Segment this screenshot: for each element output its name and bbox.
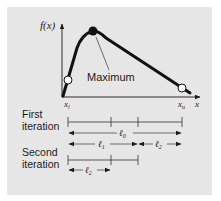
second-iteration-label-1: Second (22, 146, 58, 158)
golden-section-diagram: f(x) Maximum xl xu x First iteration ℓ0 … (0, 0, 221, 201)
second-iteration: Second iteration ℓ2 (22, 146, 138, 176)
l0-label: ℓ0 (119, 128, 126, 139)
first-iteration-label-2: iteration (22, 120, 60, 132)
l1-label: ℓ1 (98, 139, 105, 150)
first-iteration-label-1: First (22, 108, 42, 120)
function-curve (63, 31, 190, 96)
maximum-point (89, 27, 98, 36)
second-l2-label: ℓ2 (85, 165, 92, 176)
lower-bound-label: xl (63, 99, 70, 110)
maximum-pointer (96, 37, 109, 70)
l2-label: ℓ2 (155, 139, 162, 150)
upper-point (178, 84, 186, 92)
lower-point (64, 76, 72, 84)
first-iteration: First iteration ℓ0 ℓ1 ℓ2 (22, 108, 182, 150)
second-iteration-label-2: iteration (22, 158, 60, 170)
upper-bound-label: xu (177, 99, 185, 110)
maximum-label: Maximum (87, 71, 135, 83)
y-axis-label: f(x) (40, 19, 56, 32)
x-axis-label: x (194, 99, 199, 109)
